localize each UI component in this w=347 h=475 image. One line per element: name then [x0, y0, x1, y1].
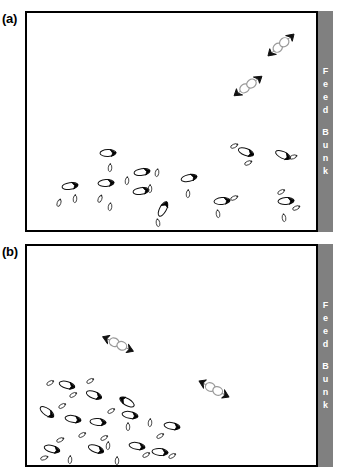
animal-cow: [133, 186, 150, 195]
animal-calf: [56, 436, 65, 443]
bunk-letter: k: [323, 399, 328, 412]
panel-b: (b) F e e d B u n k: [0, 241, 347, 469]
animal-calf: [108, 202, 113, 211]
animal-cow: [180, 173, 197, 183]
animal-cow: [214, 197, 231, 205]
animal-cow: [121, 410, 138, 420]
animal-calf: [40, 455, 49, 461]
bunk-letter: e: [323, 325, 328, 338]
bunk-letter: d: [323, 338, 329, 351]
animal-cow: [156, 200, 170, 218]
panel-b-animal-layer: [27, 246, 316, 465]
animal-calf: [86, 377, 95, 384]
bunk-letter: F: [323, 65, 329, 78]
animal-cow: [134, 167, 151, 176]
animal-cow: [62, 181, 79, 190]
animal-cow: [118, 395, 136, 409]
bunk-letter: d: [323, 104, 329, 117]
panel-b-feed-bunk: F e e d B u n k: [318, 244, 333, 467]
animal-calf: [58, 402, 67, 409]
animal-pair: [101, 333, 136, 355]
panel-a-feed-bunk: F e e d B u n k: [318, 11, 333, 232]
animal-calf: [282, 213, 287, 222]
animal-calf: [244, 159, 253, 166]
animal-calf: [142, 451, 151, 458]
bunk-letter: n: [323, 152, 329, 165]
animal-calf: [97, 194, 103, 203]
animal-cow: [163, 421, 180, 431]
bunk-letter: u: [323, 373, 329, 386]
animal-pair: [232, 73, 265, 100]
animal-calf: [78, 431, 87, 438]
animal-cow: [64, 414, 81, 424]
animal-calf: [115, 456, 119, 464]
animal-pair: [265, 31, 297, 60]
animal-calf: [68, 455, 72, 464]
animal-calf: [292, 204, 301, 211]
animal-cow: [152, 448, 169, 456]
animal-cow: [237, 146, 255, 158]
animal-calf: [46, 379, 55, 386]
animal-cow: [128, 441, 145, 451]
animal-pair: [197, 377, 231, 401]
panel-b-label: (b): [2, 245, 18, 258]
animal-calf: [155, 168, 160, 177]
animal-cow: [38, 405, 55, 420]
animal-calf: [156, 432, 165, 439]
panel-a-label: (a): [2, 12, 17, 25]
animal-calf: [106, 441, 110, 450]
animal-calf: [126, 422, 130, 430]
cattle-distribution-figure: (a) F e e d B u n k (b) F e e d B u: [0, 0, 347, 475]
bunk-letter: e: [323, 91, 328, 104]
animal-calf: [155, 218, 160, 227]
bunk-letter: e: [323, 78, 328, 91]
bunk-letter: u: [323, 139, 329, 152]
animal-calf: [100, 434, 109, 441]
bunk-letter: B: [322, 360, 329, 373]
animal-cow: [43, 444, 60, 455]
animal-calf: [168, 452, 177, 459]
animal-cow: [85, 389, 103, 401]
bunk-letter: B: [322, 126, 329, 139]
bunk-letter: n: [323, 386, 329, 399]
animal-calf: [186, 189, 190, 197]
animal-cow: [274, 149, 292, 162]
panel-b-arena: [25, 244, 318, 467]
animal-calf: [289, 154, 298, 160]
animal-calf: [230, 142, 239, 149]
animal-calf: [148, 418, 152, 427]
animal-calf: [108, 163, 112, 172]
panel-a-animal-layer: [27, 13, 316, 230]
animal-calf: [56, 198, 62, 207]
animal-calf: [73, 194, 77, 203]
animal-calf: [277, 188, 286, 195]
bunk-letter: e: [323, 312, 328, 325]
bunk-letter: k: [323, 165, 328, 178]
bunk-letter: F: [323, 299, 329, 312]
animal-cow: [100, 149, 116, 157]
animal-cow: [90, 418, 107, 426]
animal-calf: [107, 407, 116, 414]
animal-calf: [216, 209, 221, 218]
animal-calf: [69, 391, 78, 398]
animal-calf: [230, 194, 239, 201]
panel-a: (a) F e e d B u n k: [0, 8, 347, 234]
animal-cow: [98, 179, 115, 187]
animal-cow: [58, 380, 75, 391]
animal-calf: [125, 176, 129, 185]
animal-cow: [87, 443, 105, 455]
animal-cow: [278, 197, 295, 205]
panel-a-arena: [25, 11, 318, 232]
